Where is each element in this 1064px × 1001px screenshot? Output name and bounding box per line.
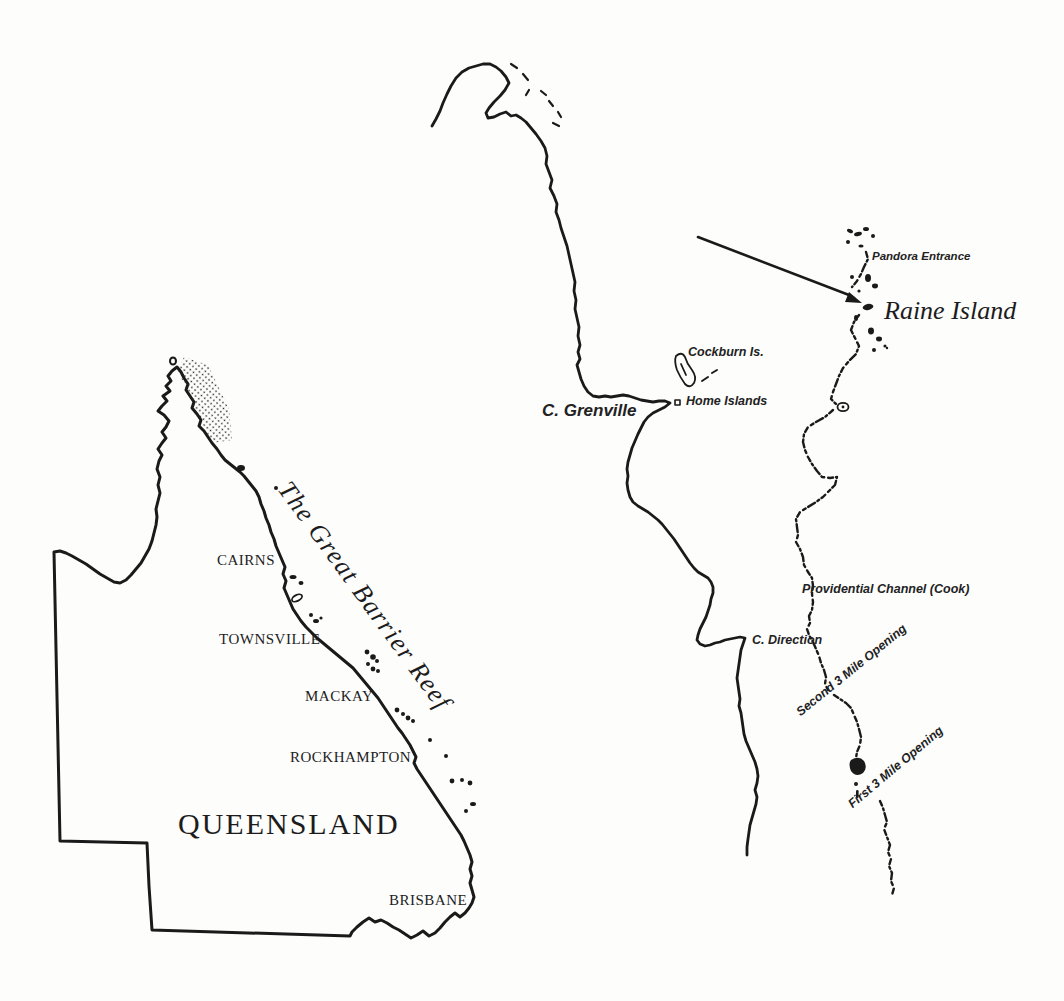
label-providential-channel: Providential Channel (Cook) [802, 583, 969, 596]
cape-york-detail-map [432, 64, 894, 895]
label-rockhampton: ROCKHAMPTON [290, 750, 411, 765]
mainland-coastline [432, 64, 758, 855]
label-mackay: MACKAY [305, 689, 373, 704]
label-queensland: QUEENSLAND [178, 809, 400, 839]
ringed-reef-islet [838, 403, 849, 411]
label-brisbane: BRISBANE [389, 893, 467, 908]
label-cape-grenville: C. Grenville [542, 402, 636, 419]
label-raine-island: Raine Island [884, 298, 1016, 324]
map-canvas [0, 0, 1064, 1001]
label-pandora-entrance: Pandora Entrance [872, 251, 970, 263]
tip-islet [170, 357, 176, 364]
label-cairns: CAIRNS [217, 553, 275, 568]
raine-island-dot [862, 303, 874, 311]
outer-reef-chain [796, 252, 894, 895]
raine-island-arrow [698, 237, 862, 303]
label-cockburn-islands: Cockburn Is. [688, 346, 764, 359]
overview-island-outline [291, 593, 304, 603]
home-islands-marker [675, 400, 680, 405]
map-figure: CAIRNS TOWNSVILLE MACKAY ROCKHAMPTON BRI… [0, 0, 1064, 1001]
label-home-islands: Home Islands [686, 395, 767, 408]
label-townsville: TOWNSVILLE [219, 632, 320, 647]
label-cape-direction: C. Direction [752, 634, 822, 647]
